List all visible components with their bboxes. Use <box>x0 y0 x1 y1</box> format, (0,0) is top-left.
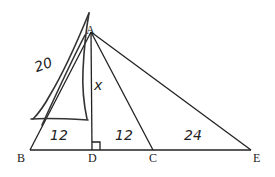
handwritten-ce-length: 24 <box>184 127 202 143</box>
handwritten-ab-length: 20 <box>32 54 54 75</box>
geometry-diagram: A B D C E 20 x 12 12 24 <box>0 0 275 177</box>
label-point-e: E <box>253 151 260 165</box>
segment-ad <box>91 32 92 150</box>
handwritten-ad-length: x <box>93 77 103 93</box>
label-point-a: A <box>86 23 95 37</box>
handwritten-sail-diagonal <box>42 35 85 125</box>
label-point-b: B <box>17 151 25 165</box>
handwritten-bd-length: 12 <box>50 127 68 143</box>
label-point-d: D <box>88 151 97 165</box>
handwritten-dc-length: 12 <box>115 127 133 143</box>
right-angle-marker <box>92 142 100 150</box>
label-point-c: C <box>149 151 157 165</box>
handwritten-sail-base <box>31 119 88 120</box>
